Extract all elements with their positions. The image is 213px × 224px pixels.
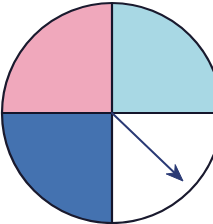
circle-quadrant-diagram [0, 0, 213, 224]
figure-root [0, 0, 213, 224]
